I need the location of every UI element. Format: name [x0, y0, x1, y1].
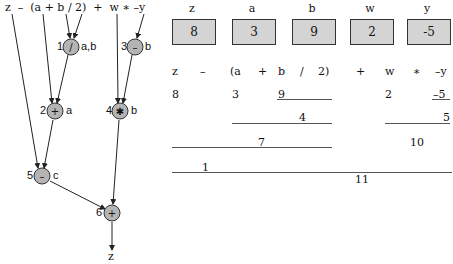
svg-text:+: +: [51, 106, 59, 117]
node-4-register: b: [131, 104, 137, 116]
node-3-register: b: [145, 40, 151, 52]
node-5-register: c: [53, 169, 59, 181]
node-1-number: 1: [57, 40, 63, 52]
node-2-number: 2: [40, 104, 46, 116]
value-a: 3: [232, 88, 239, 101]
token-multiply: ∗: [413, 65, 420, 78]
value-w: 2: [385, 88, 392, 101]
underline-mul: [385, 123, 450, 124]
node-2-register: a: [66, 104, 72, 116]
underline-div: [277, 99, 332, 100]
expression-text: z – (a + b / 2) + w ∗ –y: [5, 1, 145, 14]
var-name-z: z: [172, 2, 212, 15]
svg-text:✱: ✱: [116, 106, 124, 117]
token-b: b: [278, 65, 285, 78]
token-plus: +: [258, 65, 267, 78]
var-name-b: b: [292, 2, 332, 15]
var-box-w: 2: [350, 19, 394, 45]
token-divide: /: [300, 65, 304, 78]
value-z: 8: [172, 88, 179, 101]
token-plus-2: +: [356, 65, 365, 78]
token-2-close: 2): [318, 65, 329, 78]
node-4-number: 4: [106, 104, 112, 116]
value-mul-result: 10: [410, 136, 424, 149]
var-name-a: a: [232, 2, 272, 15]
var-box-z: 8: [172, 19, 216, 45]
token-neg-y: –y: [435, 65, 447, 78]
token-open-a: (a: [230, 65, 241, 78]
underline-add: [232, 123, 332, 124]
token-w: w: [385, 65, 394, 78]
node-6-number: 6: [96, 206, 102, 218]
token-z: z: [172, 65, 178, 78]
result-variable: z: [108, 250, 114, 263]
var-name-w: w: [350, 2, 390, 15]
var-name-y: y: [407, 2, 447, 15]
underline-sub: [172, 147, 332, 148]
underline-neg: [432, 99, 450, 100]
value-final-result: 11: [355, 173, 369, 186]
var-box-b: 9: [292, 19, 336, 45]
token-minus: –: [200, 65, 206, 78]
underline-final: [172, 172, 452, 173]
var-box-y: -5: [407, 19, 451, 45]
var-box-a: 3: [232, 19, 276, 45]
node-3-number: 3: [121, 40, 127, 52]
svg-text:–: –: [40, 171, 45, 182]
node-5-number: 5: [27, 169, 33, 181]
svg-text:–: –: [133, 42, 138, 53]
svg-text:+: +: [108, 208, 116, 219]
node-1-register: a,b: [81, 40, 96, 52]
